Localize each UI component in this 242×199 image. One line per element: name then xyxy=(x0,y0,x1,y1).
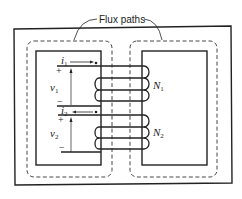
secondary-minus-sign: − xyxy=(59,142,65,153)
flux-leader-left xyxy=(74,19,97,40)
flux-path-left xyxy=(27,41,112,177)
primary-turns-label: N1 xyxy=(152,79,164,93)
core-left-window xyxy=(36,51,101,165)
primary-voltage-label: v1 xyxy=(50,81,59,95)
secondary-voltage-label: v2 xyxy=(50,127,59,141)
core-outer-boundary xyxy=(14,26,232,185)
core-right-window xyxy=(142,51,207,165)
flux-path-right xyxy=(130,41,217,177)
secondary-turns-label: N2 xyxy=(152,126,164,140)
secondary-plus-sign: + xyxy=(58,114,64,125)
primary-plus-sign: + xyxy=(56,65,62,76)
secondary-winding xyxy=(58,111,149,153)
transformer-diagram: Flux paths i1 + v1 − N1 xyxy=(0,0,242,199)
secondary-polarity-dot xyxy=(95,111,98,114)
flux-leader-right xyxy=(144,19,162,40)
primary-current-label: i1 xyxy=(61,54,68,68)
primary-winding xyxy=(57,61,149,107)
primary-polarity-dot xyxy=(95,62,98,65)
flux-paths-label: Flux paths xyxy=(99,14,145,25)
